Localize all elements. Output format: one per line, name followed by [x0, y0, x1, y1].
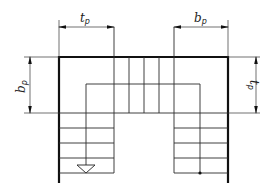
- walking-line: [86, 84, 200, 173]
- right-flight-treads: [174, 113, 228, 158]
- dim-label-top-left: tp: [80, 11, 90, 26]
- landing-risers: [114, 57, 174, 113]
- dim-label-left: bp: [14, 80, 29, 93]
- down-triangle-icon: [77, 165, 95, 173]
- dot-icon: [198, 171, 201, 174]
- dim-label-top-right: bp: [194, 11, 207, 26]
- dimension-right: tp: [246, 57, 261, 113]
- dim-label-right: tp: [246, 80, 261, 90]
- dimension-top-left: tp: [59, 11, 114, 27]
- stair-plan-diagram: tp bp bp tp: [0, 0, 273, 196]
- outer-walls: [59, 57, 228, 183]
- flight-boundaries: [59, 27, 228, 173]
- dimension-left: bp: [14, 57, 30, 113]
- dimension-top-right: bp: [174, 11, 228, 27]
- left-flight-treads: [59, 113, 114, 158]
